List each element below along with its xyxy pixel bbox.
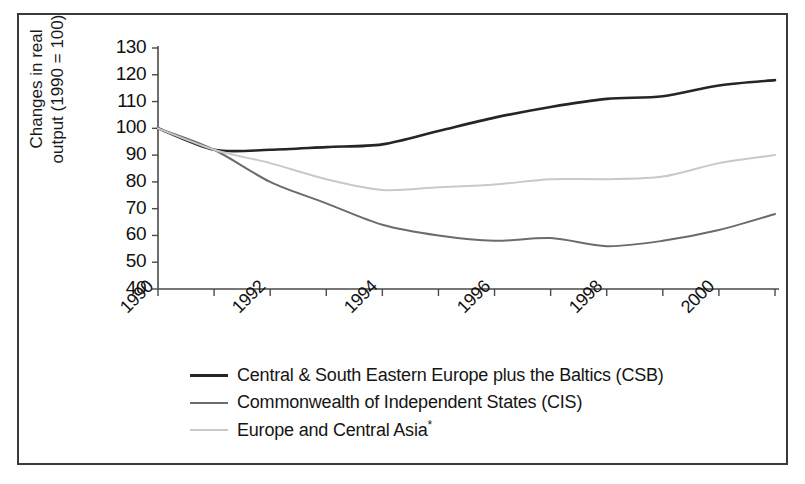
legend-label-eca: Europe and Central Asia*	[237, 418, 432, 441]
y-tick-label: 80	[100, 170, 146, 192]
legend-item-csb: Central & South Eastern Europe plus the …	[190, 362, 664, 389]
series-line-eca	[158, 128, 775, 190]
y-axis-title-line1: Changes in real	[27, 29, 46, 148]
legend-swatch-cis	[190, 402, 228, 404]
y-tick-label: 90	[100, 143, 146, 165]
legend-label-eca-text: Europe and Central Asia	[237, 420, 428, 440]
legend-item-eca: Europe and Central Asia*	[190, 416, 664, 443]
series-line-cis	[158, 128, 775, 246]
chart-legend: Central & South Eastern Europe plus the …	[190, 362, 664, 443]
chart-figure: Changes in real output (1990 = 100) 1301…	[0, 0, 805, 484]
legend-swatch-csb	[190, 374, 228, 377]
legend-label-cis: Commonwealth of Independent States (CIS)	[237, 392, 582, 413]
y-tick-label: 110	[100, 90, 146, 112]
y-tick-label: 50	[100, 250, 146, 272]
legend-footnote-marker: *	[428, 418, 432, 432]
y-tick-label: 130	[100, 36, 146, 58]
legend-swatch-eca	[190, 429, 228, 431]
y-tick-label: 120	[100, 63, 146, 85]
series-line-csb	[158, 80, 775, 151]
legend-label-csb: Central & South Eastern Europe plus the …	[237, 365, 664, 386]
data-series	[158, 80, 775, 246]
y-tick-label: 100	[100, 116, 146, 138]
y-tick-label: 70	[100, 197, 146, 219]
legend-item-cis: Commonwealth of Independent States (CIS)	[190, 389, 664, 416]
y-axis-title-line2: output (1990 = 100)	[48, 15, 67, 164]
y-axis-title: Changes in real output (1990 = 100)	[26, 0, 68, 214]
y-tick-label: 60	[100, 223, 146, 245]
